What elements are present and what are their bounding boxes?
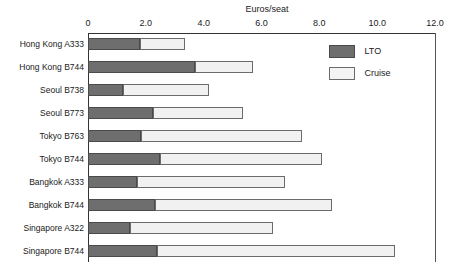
- x-tick-label: 12.0: [426, 18, 444, 28]
- x-tick-label: 4.0: [197, 18, 210, 28]
- x-axis-line: [88, 33, 436, 34]
- bar-segment-cruise: [123, 84, 210, 96]
- category-label: Tokyo B744: [40, 154, 84, 164]
- bar-row: [88, 153, 435, 165]
- category-label: Hong Kong A333: [20, 39, 84, 49]
- bar-segment-lto: [88, 222, 130, 234]
- x-axis-title: Euros/seat: [246, 4, 289, 14]
- category-label: Bangkok B744: [29, 200, 84, 210]
- stacked-bar-chart: Euros/seat 02.04.06.08.010.012.0 Hong Ko…: [0, 0, 457, 272]
- x-tick-label: 10.0: [368, 18, 386, 28]
- bar-segment-cruise: [153, 107, 243, 119]
- legend-item[interactable]: Cruise: [329, 66, 390, 80]
- x-tick-label: 6.0: [255, 18, 268, 28]
- category-label: Seoul B773: [40, 108, 84, 118]
- bar-segment-cruise: [195, 61, 253, 73]
- bar-segment-cruise: [137, 176, 284, 188]
- bar-row: [88, 176, 435, 188]
- legend-swatch-cruise: [329, 67, 355, 80]
- x-tick-label: 8.0: [313, 18, 326, 28]
- bar-segment-cruise: [140, 38, 185, 50]
- category-label: Singapore B744: [23, 246, 84, 256]
- category-label: Seoul B738: [40, 85, 84, 95]
- bar-segment-lto: [88, 38, 140, 50]
- bar-segment-lto: [88, 153, 160, 165]
- bar-segment-lto: [88, 245, 157, 257]
- bar-segment-cruise: [130, 222, 273, 234]
- x-tick-label: 2.0: [140, 18, 153, 28]
- bar-segment-cruise: [155, 199, 333, 211]
- bar-segment-lto: [88, 130, 141, 142]
- bar-segment-cruise: [141, 130, 301, 142]
- category-label: Bangkok A333: [29, 177, 84, 187]
- bar-segment-lto: [88, 61, 195, 73]
- bar-segment-cruise: [157, 245, 394, 257]
- bar-row: [88, 222, 435, 234]
- plot-right-border: [435, 33, 436, 262]
- legend-label: Cruise: [364, 68, 390, 78]
- chart-legend: LTOCruise: [329, 44, 390, 88]
- category-label: Tokyo B763: [40, 131, 84, 141]
- category-label: Singapore A322: [24, 223, 85, 233]
- bar-row: [88, 245, 435, 257]
- bar-segment-lto: [88, 176, 137, 188]
- legend-label: LTO: [364, 46, 381, 56]
- category-label: Hong Kong B744: [19, 62, 84, 72]
- bar-row: [88, 199, 435, 211]
- bar-segment-lto: [88, 107, 153, 119]
- bar-row: [88, 130, 435, 142]
- legend-item[interactable]: LTO: [329, 44, 390, 58]
- bar-segment-lto: [88, 199, 155, 211]
- legend-swatch-lto: [329, 45, 355, 58]
- bar-row: [88, 107, 435, 119]
- bar-segment-cruise: [160, 153, 322, 165]
- bar-segment-lto: [88, 84, 123, 96]
- x-tick-label: 0: [85, 18, 90, 28]
